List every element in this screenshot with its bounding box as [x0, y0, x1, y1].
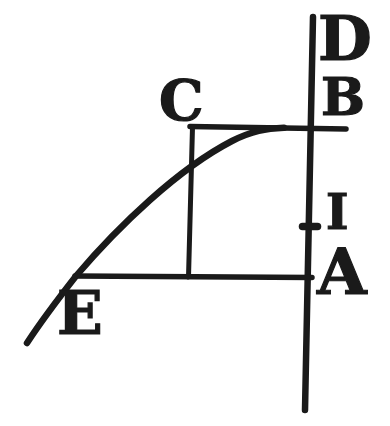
vertical-axis-line	[305, 17, 313, 410]
geometric-diagram: D B C I A E	[0, 0, 390, 426]
label-b: B	[321, 71, 365, 123]
label-e: E	[57, 283, 103, 343]
label-d: D	[318, 8, 372, 70]
label-a: A	[317, 240, 367, 304]
segment-ea	[75, 276, 312, 278]
segment-c-perpendicular	[189, 127, 193, 277]
label-c: C	[159, 72, 204, 128]
label-i: I	[326, 188, 348, 236]
